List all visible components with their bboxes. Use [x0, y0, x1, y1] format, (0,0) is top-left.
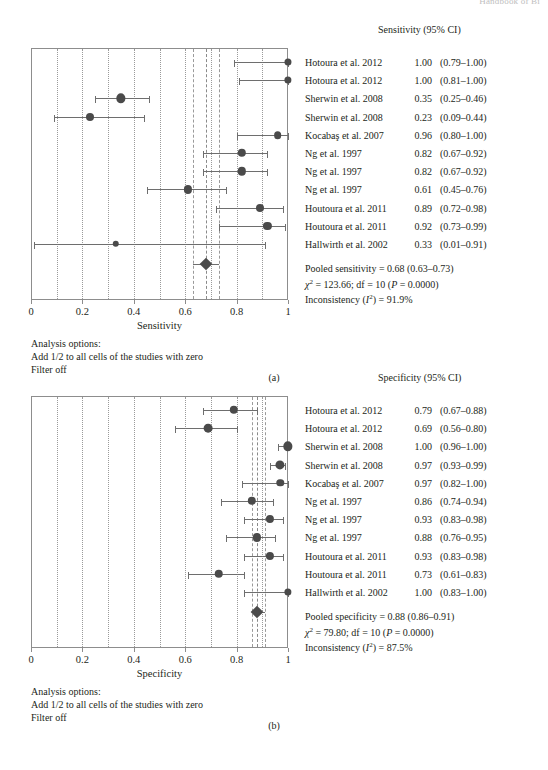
ci-cap-left — [278, 444, 279, 451]
plot-frame — [31, 48, 288, 300]
ci-cap-right — [267, 151, 268, 158]
study-confidence-interval: (0.83–1.00) — [440, 587, 487, 598]
study-label: Hotoura et al. 2012 — [305, 75, 382, 86]
study-label: Ng et al. 1997 — [305, 184, 362, 195]
study-estimate: 0.93 — [406, 551, 432, 562]
results-column-header: Sensitivity (95% CI) — [378, 24, 461, 35]
axis-tick-label: 1 — [285, 306, 290, 317]
ci-cap-left — [242, 481, 243, 488]
x-axis-title: Sensitivity — [31, 320, 288, 331]
axis-tick-label: 0.8 — [230, 306, 243, 317]
study-estimate: 0.33 — [406, 239, 432, 250]
analysis-options-title: Analysis options: — [31, 685, 203, 698]
confidence-interval-line — [54, 117, 144, 118]
pooled-statistics: Pooled sensitivity = 0.68 (0.63–0.73)χ2 … — [305, 262, 454, 307]
study-estimate: 0.97 — [406, 478, 432, 489]
ci-cap-left — [54, 115, 55, 122]
study-label: Ng et al. 1997 — [305, 514, 362, 525]
study-estimate: 0.93 — [406, 514, 432, 525]
ci-cap-right — [283, 517, 284, 524]
study-confidence-interval: (0.96–1.00) — [440, 441, 487, 452]
confidence-interval-line — [219, 226, 286, 227]
study-label: Ng et al. 1997 — [305, 532, 362, 543]
axis-tick-label: 0.2 — [76, 306, 89, 317]
gridline — [160, 49, 161, 299]
analysis-options-title: Analysis options: — [31, 337, 203, 350]
study-marker — [214, 570, 223, 579]
gridline — [185, 397, 186, 647]
study-estimate: 1.00 — [406, 587, 432, 598]
study-confidence-interval: (0.56–0.80) — [440, 423, 487, 434]
ci-cap-left — [244, 590, 245, 597]
gridline — [134, 397, 135, 647]
study-estimate: 0.89 — [406, 203, 432, 214]
study-estimate: 0.88 — [406, 532, 432, 543]
study-label: Sherwin et al. 2008 — [305, 112, 383, 123]
study-estimate: 0.97 — [406, 460, 432, 471]
study-confidence-interval: (0.01–0.91) — [440, 239, 487, 250]
ci-cap-right — [288, 481, 289, 488]
study-estimate: 1.00 — [406, 75, 432, 86]
pooled-statistics: Pooled specificity = 0.88 (0.86–0.91)χ2 … — [305, 610, 454, 655]
axis-tick — [288, 648, 289, 652]
study-label: Houtoura et al. 2011 — [305, 569, 387, 580]
study-confidence-interval: (0.25–0.46) — [440, 93, 487, 104]
study-label: Hotoura et al. 2012 — [305, 57, 382, 68]
subfigure-caption: (b) — [0, 720, 548, 731]
study-confidence-interval: (0.67–0.92) — [440, 148, 487, 159]
confidence-interval-line — [34, 244, 265, 245]
confidence-interval-line — [244, 592, 288, 593]
gridline — [211, 397, 212, 647]
study-estimate: 0.23 — [406, 112, 432, 123]
study-label: Ng et al. 1997 — [305, 166, 362, 177]
axis-tick-label: 0 — [28, 654, 33, 665]
study-estimate: 0.69 — [406, 423, 432, 434]
study-estimate: 0.82 — [406, 166, 432, 177]
ci-cap-right — [285, 463, 286, 470]
axis-tick-label: 0.2 — [76, 654, 89, 665]
study-confidence-interval: (0.81–1.00) — [440, 75, 487, 86]
ci-cap-right — [144, 115, 145, 122]
ci-cap-left — [147, 187, 148, 194]
ci-cap-right — [244, 572, 245, 579]
analysis-option-line: Add 1/2 to all cells of the studies with… — [31, 698, 203, 711]
ci-cap-right — [283, 206, 284, 213]
ci-cap-left — [270, 463, 271, 470]
study-marker — [284, 58, 291, 65]
subfigure-caption: (a) — [0, 372, 548, 383]
gridline — [262, 397, 263, 647]
pooled-ci-reference-line — [265, 397, 266, 647]
study-marker — [86, 113, 94, 121]
axis-tick-label: 0 — [28, 306, 33, 317]
axis-tick-label: 0.4 — [127, 654, 140, 665]
page-header: Handbook of Bi — [479, 0, 540, 6]
axis-tick — [237, 300, 238, 304]
study-confidence-interval: (0.45–0.76) — [440, 184, 487, 195]
ci-cap-right — [267, 169, 268, 176]
gridline — [134, 49, 135, 299]
ci-cap-right — [257, 408, 258, 415]
axis-tick-label: 0.8 — [230, 654, 243, 665]
axis-tick — [288, 300, 289, 304]
study-marker — [283, 442, 292, 451]
study-estimate: 1.00 — [406, 57, 432, 68]
axis-tick — [237, 648, 238, 652]
study-confidence-interval: (0.67–0.92) — [440, 166, 487, 177]
confidence-interval-line — [234, 62, 288, 63]
study-marker — [274, 131, 282, 139]
ci-cap-left — [237, 133, 238, 140]
axis-tick-label: 0.6 — [179, 306, 192, 317]
study-label: Sherwin et al. 2008 — [305, 460, 383, 471]
chi-square-text: χ2 = 79.80; df = 10 (P = 0.0000) — [305, 624, 454, 640]
study-marker — [284, 77, 291, 84]
ci-cap-left — [216, 206, 217, 213]
study-confidence-interval: (0.67–0.88) — [440, 405, 487, 416]
study-label: Hallwirth et al. 2002 — [305, 587, 388, 598]
axis-tick-label: 0.6 — [179, 654, 192, 665]
ci-cap-right — [285, 224, 286, 231]
confidence-interval-line — [216, 208, 283, 209]
axis-tick — [185, 300, 186, 304]
confidence-interval-line — [239, 80, 288, 81]
study-estimate: 0.61 — [406, 184, 432, 195]
ci-cap-left — [188, 572, 189, 579]
